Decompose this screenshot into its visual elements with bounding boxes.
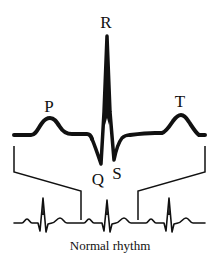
label-r: R <box>100 14 111 31</box>
right-bracket-line <box>138 146 205 220</box>
label-p: P <box>44 98 53 115</box>
t-wave-trace <box>130 115 205 135</box>
left-bracket-line <box>14 146 81 220</box>
ecg-diagram <box>0 0 218 267</box>
label-s: S <box>112 165 121 182</box>
p-wave-trace <box>14 118 92 139</box>
label-q: Q <box>92 171 104 188</box>
caption-normal-rhythm: Normal rhythm <box>70 239 151 252</box>
label-t: T <box>175 93 185 110</box>
qrs-complex-trace <box>92 36 130 164</box>
